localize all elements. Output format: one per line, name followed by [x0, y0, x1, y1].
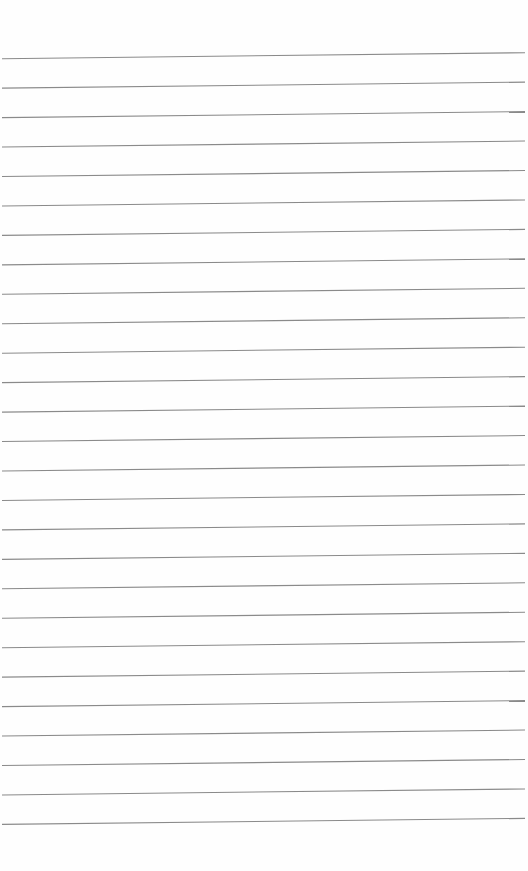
- ruled-line: [2, 112, 525, 118]
- ruled-line: [2, 701, 525, 707]
- ruled-line: [2, 141, 525, 147]
- ruled-line: [2, 318, 525, 324]
- ruled-line: [2, 494, 525, 500]
- ruled-line: [2, 82, 525, 88]
- ruled-line: [2, 229, 525, 235]
- ruled-line: [2, 671, 525, 677]
- ruled-line: [2, 377, 525, 383]
- ruled-line: [2, 288, 525, 294]
- ruled-lines: [0, 0, 528, 871]
- ruled-line: [2, 524, 525, 530]
- ruled-line: [2, 789, 525, 795]
- ruled-line: [2, 406, 525, 412]
- ruled-line: [2, 347, 525, 353]
- ruled-line: [2, 642, 525, 648]
- ruled-line: [2, 612, 525, 618]
- ruled-line: [2, 553, 525, 559]
- ruled-line: [2, 53, 525, 59]
- ruled-line: [2, 436, 525, 442]
- ruled-line: [2, 818, 525, 824]
- ruled-line: [2, 171, 525, 177]
- ruled-line: [2, 583, 525, 589]
- ruled-line: [2, 259, 525, 265]
- ruled-line: [2, 760, 525, 766]
- ruled-line: [2, 730, 525, 736]
- ruled-line: [2, 200, 525, 206]
- lined-paper-sheet: [0, 0, 528, 871]
- ruled-line: [2, 465, 525, 471]
